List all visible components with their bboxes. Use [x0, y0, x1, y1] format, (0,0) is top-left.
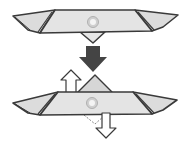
- step-before-fold: [13, 10, 178, 43]
- origami-diagram: [0, 0, 189, 148]
- bottom-flap: [80, 32, 105, 43]
- pull-up-arrow-icon: [61, 70, 81, 94]
- push-down-arrow-icon: [96, 113, 116, 138]
- center-marker-icon: [88, 17, 99, 28]
- transition-arrow-icon: [79, 46, 107, 72]
- step-after-fold: [13, 70, 177, 138]
- center-marker-icon: [87, 98, 98, 109]
